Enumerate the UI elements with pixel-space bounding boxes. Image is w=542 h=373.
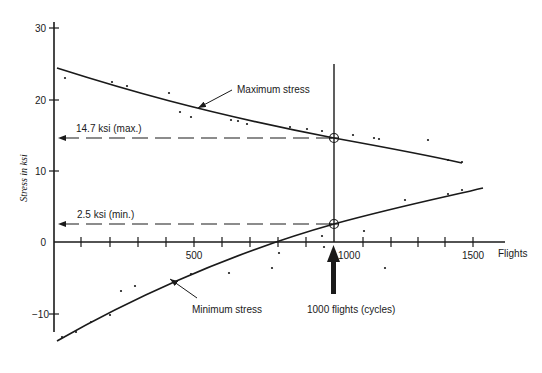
stress-chart: 30 20 10 0 −10 Stress in ksi 500 1000 15… — [0, 0, 542, 373]
y-tick-label-neg10: −10 — [32, 309, 49, 320]
x-tick-label-1000: 1000 — [338, 250, 361, 261]
max-stress-leader — [198, 90, 232, 108]
y-tick-label-10: 10 — [35, 166, 47, 177]
min-stress-label: Minimum stress — [192, 304, 262, 315]
max-stress-curve — [57, 68, 462, 163]
cycles-label: 1000 flights (cycles) — [307, 304, 395, 315]
y-tick-label-30: 30 — [35, 23, 47, 34]
x-tick-label-500: 500 — [186, 250, 203, 261]
min-value-annotation: 2.5 ksi (min.) — [77, 209, 134, 220]
y-axis-label: Stress in ksi — [18, 154, 29, 202]
x-axis: 500 1000 1500 Flights — [54, 237, 527, 261]
y-tick-label-20: 20 — [35, 95, 47, 106]
max-stress-label: Maximum stress — [237, 84, 310, 95]
x-axis-label: Flights — [498, 248, 527, 259]
y-tick-label-0: 0 — [40, 237, 46, 248]
min-stress-leader — [170, 279, 197, 298]
max-value-annotation: 14.7 ksi (max.) — [76, 123, 142, 134]
x-tick-label-1500: 1500 — [462, 250, 485, 261]
y-axis: 30 20 10 0 −10 Stress in ksi — [18, 22, 59, 332]
